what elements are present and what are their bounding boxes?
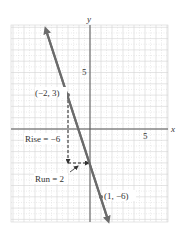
run-annotation: Run = 2: [35, 174, 64, 184]
y-tick-5: 5: [82, 67, 87, 77]
coordinate-graph: x y 5 5 (−2, 3) (1, −6) Rise = −6 Run = …: [0, 0, 184, 229]
point-b-label: (1, −6): [104, 191, 129, 201]
run-pointer: [70, 166, 78, 172]
x-tick-5: 5: [143, 131, 148, 141]
x-axis-label: x: [170, 124, 175, 134]
point-a-label: (−2, 3): [35, 88, 60, 98]
point-b: [99, 195, 103, 199]
rise-annotation: Rise = −6: [25, 134, 61, 144]
y-axis-label: y: [86, 14, 91, 24]
graph-line-bottom-arrow: [46, 30, 108, 220]
